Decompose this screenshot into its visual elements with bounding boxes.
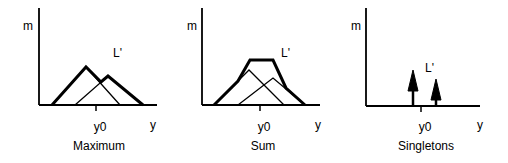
y-axis-label: m [23, 20, 33, 32]
y-axis-label: m [187, 20, 197, 32]
panel-singletons [366, 8, 480, 112]
x-axis-label: y [150, 119, 156, 131]
x-axis-label: y [477, 119, 483, 131]
sum-envelope [214, 60, 305, 105]
panel-sum [202, 8, 320, 111]
triangle-set-b [238, 78, 305, 105]
panel-maximum [39, 8, 157, 111]
panel-caption: Sum [251, 140, 276, 152]
triangle-set-a [214, 70, 284, 105]
singleton-a-arrowhead [408, 70, 418, 91]
triangle-set-a [52, 67, 120, 105]
output-set-label: L' [281, 47, 290, 59]
output-set-label: L' [425, 62, 434, 74]
y0-label: y0 [94, 121, 107, 133]
y-axis-label: m [351, 20, 361, 32]
panel-caption: Singletons [398, 140, 454, 152]
triangle-set-b [75, 76, 143, 105]
x-axis-label: y [315, 119, 321, 131]
y0-label: y0 [258, 121, 271, 133]
output-set-label: L' [113, 47, 122, 59]
y0-label: y0 [419, 121, 432, 133]
singleton-b-arrowhead [431, 79, 441, 100]
panel-caption: Maximum [73, 140, 125, 152]
